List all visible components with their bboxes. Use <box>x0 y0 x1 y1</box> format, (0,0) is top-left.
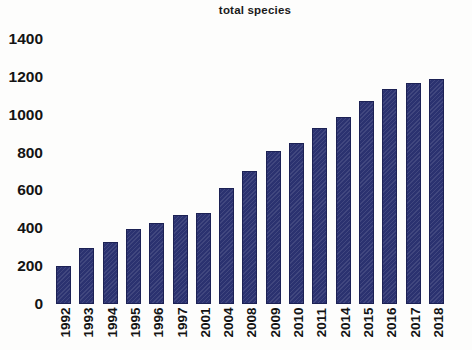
x-axis-tick-label: 1997 <box>174 302 189 344</box>
bar-chart: total species 1400120010008006004002000 … <box>0 0 472 350</box>
x-axis-tick-label: 2001 <box>197 302 212 344</box>
x-axis-tick-label: 2016 <box>384 302 399 344</box>
y-axis-tick: 400 <box>17 221 43 237</box>
x-axis-tick-label: 1992 <box>58 302 73 344</box>
bar[interactable] <box>56 266 71 304</box>
x-axis-tick-label: 2011 <box>314 302 329 344</box>
y-axis-tick: 800 <box>17 145 43 161</box>
x-axis-tick-label: 2004 <box>221 302 236 344</box>
x-axis-tick-label: 2008 <box>244 302 259 344</box>
bar[interactable] <box>382 89 397 304</box>
x-axis-tick-label: 1993 <box>81 302 96 344</box>
bar[interactable] <box>242 171 257 304</box>
bar[interactable] <box>266 151 281 304</box>
bar-group[interactable]: 2015 <box>357 0 379 350</box>
plot-area: 1992199319941995199619972001200420082009… <box>52 0 472 350</box>
bar-group[interactable]: 1992 <box>54 0 76 350</box>
bar[interactable] <box>103 242 118 304</box>
bar-group[interactable]: 2009 <box>264 0 286 350</box>
bar-group[interactable]: 2018 <box>427 0 449 350</box>
y-axis-tick: 1200 <box>9 69 43 85</box>
bar-group[interactable]: 1994 <box>101 0 123 350</box>
bar-group[interactable]: 2011 <box>310 0 332 350</box>
bar-group[interactable]: 2004 <box>217 0 239 350</box>
bar-group[interactable]: 2001 <box>194 0 216 350</box>
bar[interactable] <box>79 248 94 304</box>
bar[interactable] <box>196 213 211 304</box>
bar-group[interactable]: 1996 <box>147 0 169 350</box>
x-axis-tick-label: 2014 <box>337 302 352 344</box>
bar[interactable] <box>173 215 188 304</box>
y-axis: 1400120010008006004002000 <box>0 0 48 350</box>
x-axis-tick-label: 2015 <box>360 302 375 344</box>
x-axis-tick-label: 2009 <box>267 302 282 344</box>
bar-group[interactable]: 2017 <box>404 0 426 350</box>
bar[interactable] <box>289 143 304 304</box>
bar-group[interactable]: 1995 <box>124 0 146 350</box>
y-axis-tick: 200 <box>17 258 43 274</box>
y-axis-tick: 1400 <box>9 31 43 47</box>
bar[interactable] <box>149 223 164 304</box>
x-axis-tick-label: 1995 <box>127 302 142 344</box>
bar[interactable] <box>312 128 327 304</box>
x-axis-tick-label: 2018 <box>430 302 445 344</box>
y-axis-tick: 1000 <box>9 107 43 123</box>
bar[interactable] <box>126 229 141 304</box>
y-axis-tick: 600 <box>17 183 43 199</box>
bar[interactable] <box>359 101 374 304</box>
x-axis-tick-label: 1994 <box>104 302 119 344</box>
bar-group[interactable]: 2010 <box>287 0 309 350</box>
bar[interactable] <box>406 83 421 304</box>
x-axis-tick-label: 2017 <box>407 302 422 344</box>
bar[interactable] <box>219 188 234 304</box>
bar-group[interactable]: 1993 <box>77 0 99 350</box>
bar-group[interactable]: 2008 <box>240 0 262 350</box>
y-axis-tick: 0 <box>34 296 43 312</box>
bar-group[interactable]: 2016 <box>380 0 402 350</box>
bar-group[interactable]: 1997 <box>171 0 193 350</box>
bar[interactable] <box>429 79 444 304</box>
bar-series: 1992199319941995199619972001200420082009… <box>52 0 472 350</box>
x-axis-tick-label: 1996 <box>151 302 166 344</box>
bar[interactable] <box>336 117 351 304</box>
x-axis-tick-label: 2010 <box>291 302 306 344</box>
bar-group[interactable]: 2014 <box>334 0 356 350</box>
